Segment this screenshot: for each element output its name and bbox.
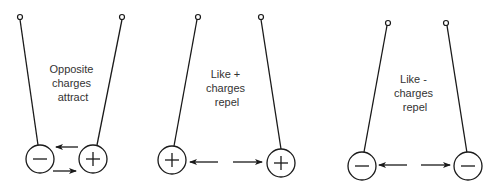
negative-ball: [26, 145, 54, 173]
string-right: [261, 20, 281, 150]
positive-ball: [79, 145, 107, 173]
positive-ball-left: [158, 146, 186, 174]
panel-label: Like + charges repel: [206, 68, 248, 108]
pivot-right: [444, 21, 449, 26]
panel-label: Opposite charges attract: [49, 63, 96, 103]
charge-pendulum-diagram: Opposite charges attract Like + charges …: [0, 0, 494, 185]
negative-ball-right: [454, 152, 482, 180]
panel-like-negative-charges: Like - charges repel: [348, 21, 482, 181]
panel-opposite-charges: Opposite charges attract: [18, 15, 125, 174]
string-left: [20, 20, 38, 146]
negative-ball-left: [348, 152, 376, 180]
pivot-right: [259, 15, 264, 20]
string-right: [447, 26, 467, 154]
pivot-left: [18, 15, 23, 20]
pivot-right: [120, 15, 125, 20]
positive-ball-right: [267, 149, 295, 177]
string-right: [97, 20, 122, 146]
panel-like-positive-charges: Like + charges repel: [158, 15, 295, 178]
pivot-left: [196, 15, 201, 20]
pivot-left: [386, 21, 391, 26]
string-left: [364, 26, 387, 153]
panel-label: Like - charges repel: [394, 73, 436, 113]
string-left: [174, 20, 197, 147]
